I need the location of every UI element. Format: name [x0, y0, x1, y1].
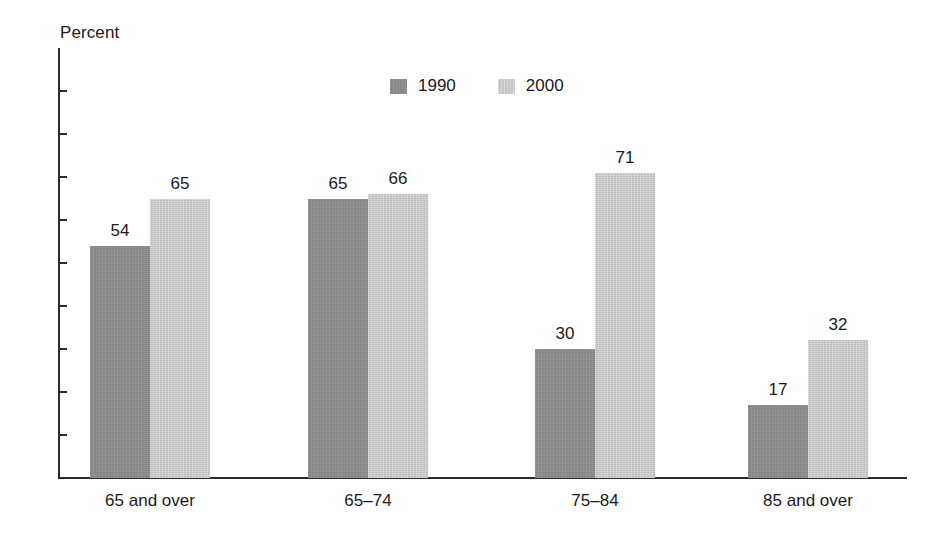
bar-chart-figure: Percent 1009080706050403020100 1990 2000…: [0, 0, 939, 534]
x-category-label: 65–74: [258, 491, 478, 511]
bar-2000-75–84: [595, 173, 655, 478]
bar-1990-85-and-over: [748, 405, 808, 478]
bar-2000-65–74: [368, 194, 428, 478]
bar-1990-65–74: [308, 199, 368, 479]
bar-1990-75–84: [535, 349, 595, 478]
bar-value-label: 66: [368, 169, 428, 189]
x-category-label: 75–84: [485, 491, 705, 511]
bar-value-label: 30: [535, 324, 595, 344]
bar-value-label: 65: [150, 174, 210, 194]
bar-2000-85-and-over: [808, 340, 868, 478]
bar-2000-65-and-over: [150, 199, 210, 479]
x-category-label: 85 and over: [698, 491, 918, 511]
bar-value-label: 17: [748, 380, 808, 400]
y-axis-title: Percent: [60, 23, 119, 43]
plot-area: 5465656630711732: [58, 48, 905, 478]
bar-value-label: 71: [595, 148, 655, 168]
bar-value-label: 32: [808, 315, 868, 335]
bar-value-label: 54: [90, 221, 150, 241]
bar-1990-65-and-over: [90, 246, 150, 478]
bar-value-label: 65: [308, 174, 368, 194]
x-category-label: 65 and over: [40, 491, 260, 511]
